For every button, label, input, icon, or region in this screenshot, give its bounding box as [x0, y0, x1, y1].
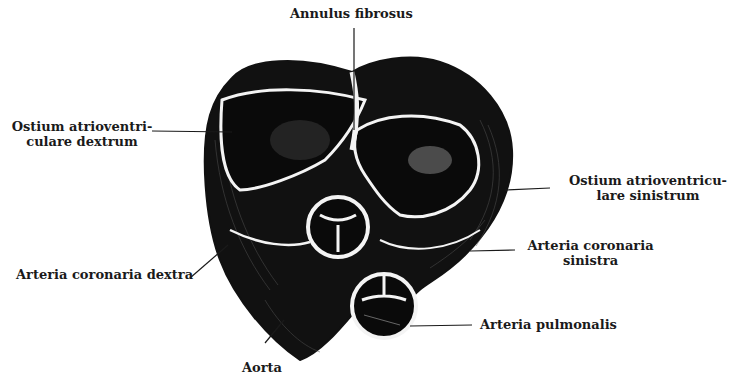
label-arteria-pulmonalis: Arteria pulmonalis [480, 317, 617, 332]
leader-coronaria-sinistra [470, 250, 515, 251]
label-arteria-coronaria-dextra: Arteria coronaria dextra [16, 267, 193, 282]
leader-pulmonalis [410, 325, 472, 326]
label-arteria-coronaria-sinistra: Arteria coronaria sinistra [518, 238, 663, 268]
leader-ostium-sinistrum [505, 188, 550, 190]
label-ostium-av-dextrum-line2: culare dextrum [8, 134, 156, 149]
label-ostium-av-dextrum: Ostium atrioventri- culare dextrum [8, 119, 156, 149]
label-ostium-av-dextrum-line1: Ostium atrioventri- [8, 119, 156, 134]
pulmonary-valve-upper [308, 197, 368, 257]
label-annulus-fibrosus: Annulus fibrosus [290, 6, 413, 21]
label-ostium-av-sinistrum: Ostium atrioventricu- lare sinistrum [558, 173, 738, 203]
label-aorta: Aorta [242, 360, 282, 375]
label-ostium-av-sinistrum-line1: Ostium atrioventricu- [558, 173, 738, 188]
label-arteria-coronaria-sinistra-line2: sinistra [518, 253, 663, 268]
diagram-canvas: Annulus fibrosus Ostium atrioventri- cul… [0, 0, 742, 391]
label-arteria-coronaria-sinistra-line1: Arteria coronaria [518, 238, 663, 253]
label-ostium-av-sinistrum-line2: lare sinistrum [558, 188, 738, 203]
aortic-valve-lower [352, 274, 416, 338]
